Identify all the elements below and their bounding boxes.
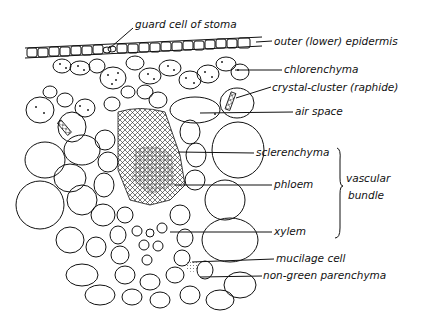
label-air-space: air space xyxy=(295,105,343,117)
epidermis-layer xyxy=(25,37,262,58)
vascular-strand xyxy=(118,109,185,206)
label-guard-cell: guard cell of stoma xyxy=(135,18,237,30)
label-xylem: xylem xyxy=(273,225,306,237)
label-mucilage-cell: mucilage cell xyxy=(276,252,346,264)
leaf-section-diagram: guard cell of stoma outer (lower) epider… xyxy=(0,0,424,329)
label-sclerenchyma: sclerenchyma xyxy=(256,146,329,158)
label-crystal-cluster: crystal-cluster (raphide) xyxy=(272,81,398,93)
xylem-vessels xyxy=(132,223,167,265)
guard-cells xyxy=(103,46,116,53)
label-parenchyma: non-green parenchyma xyxy=(263,269,386,281)
label-epidermis: outer (lower) epidermis xyxy=(274,35,398,47)
label-phloem: phloem xyxy=(273,178,313,190)
label-chlorenchyma: chlorenchyma xyxy=(284,63,359,75)
label-bundle: bundle xyxy=(348,189,384,201)
label-vascular: vascular xyxy=(346,172,391,184)
